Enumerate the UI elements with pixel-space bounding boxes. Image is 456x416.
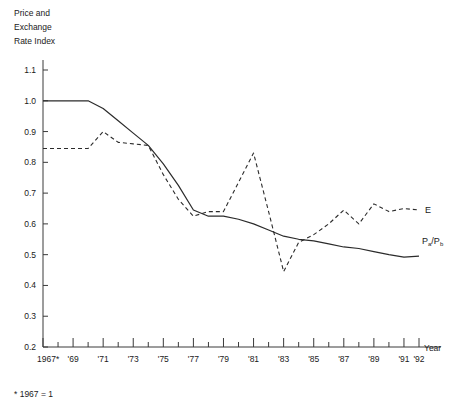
y-axis-tick-label: 1.0	[24, 96, 36, 106]
x-axis-tick-label: '71	[98, 354, 109, 364]
data-series-group	[43, 101, 419, 272]
x-axis-tick-label: '85	[308, 354, 319, 364]
y-axis: 1.11.00.90.80.70.60.50.40.30.2	[24, 60, 48, 352]
y-axis-tick-label: 0.2	[24, 342, 36, 352]
y-axis-tick-label: 0.3	[24, 311, 36, 321]
x-axis-tick-label: '87	[338, 354, 349, 364]
y-axis-tick-label: 0.7	[24, 188, 36, 198]
y-axis-tick-label: 0.5	[24, 250, 36, 260]
series-labels-group: Pa/PbE	[422, 205, 444, 247]
series-label-mid: /P	[431, 236, 440, 246]
y-axis-tick-label: 0.9	[24, 127, 36, 137]
y-axis-tick-label: 1.1	[24, 65, 36, 75]
y-axis-title-line-2: Exchange	[14, 22, 52, 32]
series-label-e: E	[425, 205, 431, 215]
series-line-e	[43, 132, 419, 272]
y-axis-tick-label: 0.6	[24, 219, 36, 229]
x-axis-tick-label: '83	[278, 354, 289, 364]
x-axis-tick-label: '89	[368, 354, 379, 364]
y-axis-title-line-1: Price and	[14, 8, 50, 18]
x-axis: 1967*'69'71'73'75'77'79'81'83'85'87'89'9…	[37, 338, 441, 364]
x-axis-tick-label: '91	[398, 354, 409, 364]
series-label-subscript-2: b	[440, 241, 444, 247]
y-axis-title-line-3: Rate Index	[14, 36, 56, 46]
x-axis-tick-label: '79	[218, 354, 229, 364]
footnote: * 1967 = 1	[14, 389, 53, 399]
y-axis-tick-label: 0.4	[24, 280, 36, 290]
x-axis-tick-label: '81	[248, 354, 259, 364]
x-axis-title: Year	[424, 343, 441, 353]
x-axis-tick-label: '77	[188, 354, 199, 364]
series-label-pa-pb: Pa/Pb	[422, 236, 444, 247]
x-axis-tick-label: '69	[68, 354, 79, 364]
x-axis-tick-label: '92	[413, 354, 424, 364]
price-exchange-rate-index-line-chart: Price and Exchange Rate Index 1.11.00.90…	[0, 0, 456, 416]
series-line-pa-pb	[43, 101, 419, 257]
y-axis-tick-label: 0.8	[24, 157, 36, 167]
chart-container: Price and Exchange Rate Index 1.11.00.90…	[0, 0, 456, 416]
x-axis-tick-label: '73	[128, 354, 139, 364]
x-axis-tick-label: '75	[158, 354, 169, 364]
x-axis-tick-label: 1967*	[37, 354, 60, 364]
